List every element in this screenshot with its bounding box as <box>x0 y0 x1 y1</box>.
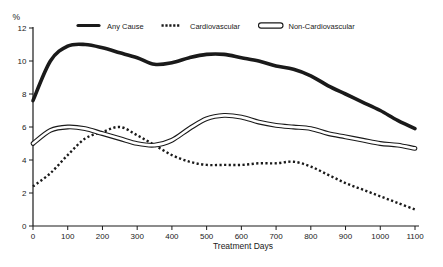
x-tick-label: 900 <box>339 232 353 241</box>
x-tick-label: 500 <box>200 232 214 241</box>
y-tick-label: 2 <box>22 189 27 198</box>
legend-label-any-cause: Any Cause <box>107 22 144 31</box>
mortality-rate-chart: 0246810120100200300400500600700800900100… <box>0 0 443 267</box>
x-tick-label: 200 <box>96 232 110 241</box>
y-tick-label: 4 <box>22 156 27 165</box>
chart-canvas: 0246810120100200300400500600700800900100… <box>0 0 443 267</box>
series-non-cardiovascular-outline <box>33 115 415 148</box>
legend-swatch-non-cardiovascular <box>259 23 284 28</box>
x-tick-label: 0 <box>31 232 36 241</box>
y-tick-label: 0 <box>22 222 27 231</box>
legend-label-non-cardiovascular: Non-Cardiovascular <box>289 22 356 31</box>
x-tick-label: 300 <box>131 232 145 241</box>
x-axis-label: Treatment Days <box>213 241 273 251</box>
y-tick-label: 12 <box>18 24 27 33</box>
x-tick-label: 1000 <box>371 232 389 241</box>
x-tick-label: 700 <box>269 232 283 241</box>
x-tick-label: 600 <box>235 232 249 241</box>
x-tick-label: 400 <box>165 232 179 241</box>
y-tick-label: 6 <box>22 123 27 132</box>
y-tick-label: 10 <box>18 57 27 66</box>
x-tick-label: 1100 <box>406 232 424 241</box>
y-tick-label: 8 <box>22 90 27 99</box>
legend-label-cardiovascular: Cardiovascular <box>190 22 241 31</box>
y-axis-unit-label: % <box>13 12 21 22</box>
x-tick-label: 800 <box>304 232 318 241</box>
x-tick-label: 100 <box>61 232 75 241</box>
